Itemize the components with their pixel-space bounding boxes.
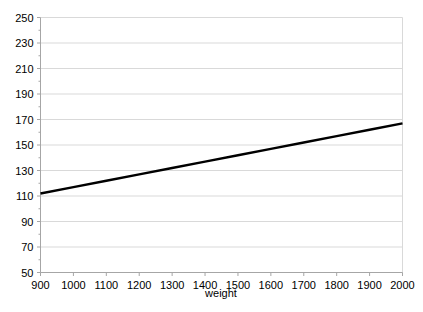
x-axis-title: weight [204,287,237,299]
y-tick-label: 70 [21,241,33,253]
y-tick-label: 90 [21,216,33,228]
chart-background [0,0,423,312]
y-tick-label: 210 [15,63,33,75]
x-tick-label: 1000 [61,279,85,291]
x-tick-label: 1100 [94,279,118,291]
y-tick-label: 170 [15,114,33,126]
x-tick-label: 1800 [324,279,348,291]
x-tick-label: 1700 [292,279,316,291]
line-chart: 507090110130150170190210230250 900100011… [0,0,423,312]
x-tick-label: 1600 [259,279,283,291]
y-tick-label: 110 [16,190,34,202]
x-tick-label: 1900 [357,279,381,291]
y-tick-label: 250 [15,12,33,24]
x-tick-label: 1200 [127,279,151,291]
y-tick-label: 230 [15,37,33,49]
y-tick-label: 130 [15,165,33,177]
x-tick-label: 900 [31,279,49,291]
x-tick-label: 2000 [390,279,414,291]
y-tick-label: 190 [15,88,33,100]
y-tick-label: 150 [15,139,33,151]
x-tick-label: 1300 [160,279,184,291]
chart-container: 507090110130150170190210230250 900100011… [0,0,423,312]
y-tick-label: 50 [21,267,33,279]
